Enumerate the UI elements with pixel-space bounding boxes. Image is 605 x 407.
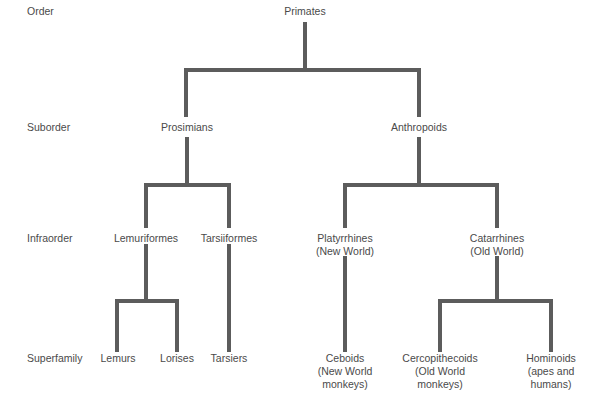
- node-hominoids-name: Hominoids: [526, 352, 576, 365]
- node-ceboids-note-2: monkeys): [318, 378, 373, 391]
- node-hominoids-note-2: humans): [526, 378, 576, 391]
- node-prosimians: Prosimians: [161, 121, 213, 134]
- tree-connectors: [0, 0, 605, 407]
- node-ceboids-note-1: (New World: [318, 365, 373, 378]
- node-ceboids: Ceboids (New World monkeys): [318, 352, 373, 391]
- node-tarsiiformes: Tarsiiformes: [201, 232, 258, 245]
- node-lorises: Lorises: [160, 352, 194, 365]
- node-catarrhines-name: Catarrhines: [470, 232, 524, 245]
- node-platyrrhines: Platyrrhines (New World): [316, 232, 374, 258]
- node-catarrhines-note: (Old World): [470, 245, 524, 258]
- node-catarrhines: Catarrhines (Old World): [470, 232, 524, 258]
- node-tarsiers: Tarsiers: [211, 352, 248, 365]
- node-hominoids-note-1: (apes and: [526, 365, 576, 378]
- node-primates: Primates: [284, 5, 325, 18]
- level-label-order: Order: [27, 5, 54, 18]
- node-hominoids: Hominoids (apes and humans): [526, 352, 576, 391]
- level-label-infraorder: Infraorder: [27, 232, 73, 245]
- node-cercopithecoids-name: Cercopithecoids: [402, 352, 477, 365]
- node-platyrrhines-name: Platyrrhines: [316, 232, 374, 245]
- node-ceboids-name: Ceboids: [318, 352, 373, 365]
- node-cercopithecoids-note-1: (Old World: [402, 365, 477, 378]
- node-cercopithecoids-note-2: monkeys): [402, 378, 477, 391]
- node-cercopithecoids: Cercopithecoids (Old World monkeys): [402, 352, 477, 391]
- node-anthropoids: Anthropoids: [391, 121, 447, 134]
- node-lemuriformes: Lemuriformes: [114, 232, 178, 245]
- level-label-suborder: Suborder: [27, 121, 70, 134]
- node-lemurs: Lemurs: [100, 352, 135, 365]
- node-platyrrhines-note: (New World): [316, 245, 374, 258]
- level-label-superfamily: Superfamily: [27, 352, 82, 365]
